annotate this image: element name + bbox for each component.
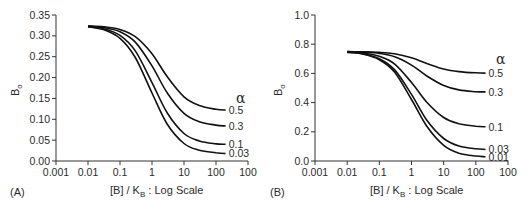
series-label: 0.03 — [229, 147, 250, 159]
series-label: 0.01 — [489, 151, 510, 163]
panel-a: 0.000.050.100.150.200.250.300.35 0.0010.… — [9, 9, 257, 200]
y-tick-label: 0.20 — [30, 71, 51, 83]
y-tick-label: 0.25 — [30, 50, 51, 62]
series-label: 0.3 — [229, 120, 244, 132]
series-line-alpha-0.1 — [88, 27, 226, 145]
x-tick-label: 0.001 — [43, 166, 69, 178]
y-tick-label: 0.10 — [30, 113, 51, 125]
x-tick-label: 10 — [178, 166, 190, 178]
curves — [347, 52, 485, 157]
y-tick-label: 0.0 — [294, 155, 309, 167]
series-labels: 0.50.30.10.03 — [229, 104, 250, 159]
x-axis-title: [B] / KB : Log Scale — [370, 184, 463, 199]
x-tick-label: 100 — [467, 166, 485, 178]
x-axis-title: [B] / KB : Log Scale — [110, 184, 203, 199]
x-axis: 0.0010.010.1110100100 — [302, 161, 517, 178]
x-tick-label: 1 — [149, 166, 155, 178]
panel-b: 0.00.20.40.60.81.0 0.0010.010.1110100100… — [270, 9, 517, 200]
legend-title: α — [496, 51, 506, 67]
x-tick-label: 0.1 — [113, 166, 128, 178]
series-label: 0.1 — [489, 121, 504, 133]
series-line-alpha-0.3 — [88, 26, 226, 126]
y-tick-label: 0.05 — [30, 134, 51, 146]
x-tick-label: 0.1 — [372, 166, 387, 178]
series-labels: 0.50.30.10.030.01 — [489, 67, 510, 163]
y-tick-label: 0.35 — [30, 9, 51, 21]
panel-label: (B) — [270, 186, 285, 198]
series-label: 0.5 — [489, 67, 504, 79]
y-tick-label: 0.30 — [30, 29, 51, 41]
x-tick-label: 100 — [239, 166, 257, 178]
y-tick-label: 0.15 — [30, 92, 51, 104]
legend-title: α — [236, 90, 246, 106]
y-tick-label: 0.00 — [30, 155, 51, 167]
y-tick-label: 0.8 — [294, 38, 309, 50]
series-line-alpha-0.03 — [88, 27, 226, 154]
panel-label: (A) — [10, 186, 25, 198]
y-tick-label: 0.2 — [294, 125, 309, 137]
x-tick-label: 0.001 — [302, 166, 328, 178]
series-label: 0.3 — [489, 86, 504, 98]
y-axis: 0.000.050.100.150.200.250.300.35 — [30, 9, 56, 167]
x-tick-label: 0.01 — [337, 166, 358, 178]
y-axis-title: Bo — [9, 84, 24, 96]
x-tick-label: 0.01 — [78, 166, 99, 178]
x-tick-label: 100 — [499, 166, 517, 178]
figure: 0.000.050.100.150.200.250.300.35 0.0010.… — [0, 0, 527, 207]
x-tick-label: 10 — [438, 166, 450, 178]
series-line-alpha-0.5 — [88, 26, 226, 110]
y-axis: 0.00.20.40.60.81.0 — [294, 9, 315, 167]
curves — [88, 26, 226, 154]
x-tick-label: 100 — [207, 166, 225, 178]
y-tick-label: 0.4 — [294, 96, 309, 108]
y-tick-label: 0.6 — [294, 67, 309, 79]
series-line-alpha-0.1 — [347, 52, 485, 127]
x-tick-label: 1 — [409, 166, 415, 178]
x-axis: 0.0010.010.1110100100 — [43, 161, 257, 178]
series-line-alpha-0.03 — [347, 52, 485, 149]
y-axis-title: Bo — [272, 84, 287, 96]
y-tick-label: 1.0 — [294, 9, 309, 21]
